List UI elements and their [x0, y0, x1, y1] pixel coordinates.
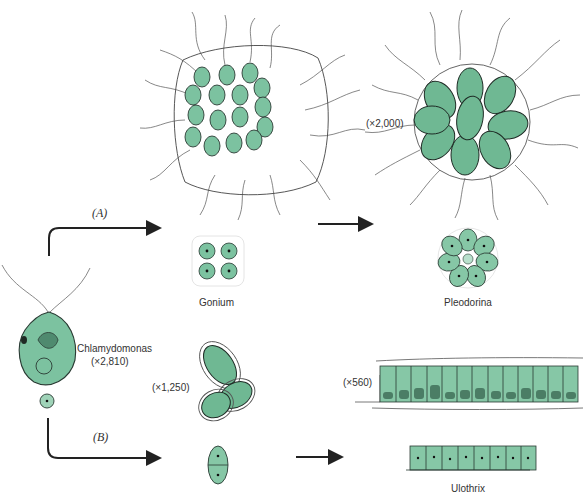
- chlamydomonas-magnification: (×2,810): [91, 356, 129, 367]
- gonium-small-illustration: [192, 236, 244, 286]
- tetraspora-illustration: [191, 334, 261, 484]
- pathway-b-label: (B): [93, 430, 108, 445]
- pleodorina-small-illustration: [437, 228, 500, 290]
- chlamydomonas-illustration: [2, 265, 90, 408]
- tetraspora-magnification: (×1,250): [152, 382, 190, 393]
- ulothrix-magnification: (×560): [343, 377, 372, 388]
- ulothrix-label: Ulothrix: [451, 483, 485, 494]
- pleodorina-label: Pleodorina: [444, 297, 492, 308]
- gonium-colony-illustration: [140, 12, 365, 220]
- algae-evolution-diagram: (A) (B) Chlamydomonas (×2,810) Gonium Pl…: [0, 0, 583, 498]
- pathway-a-arrow: [49, 228, 158, 256]
- chlamydomonas-label: Chlamydomonas: [77, 343, 152, 354]
- pleodorina-magnification: (×2,000): [366, 118, 404, 129]
- gonium-label: Gonium: [199, 297, 234, 308]
- pathway-a-label: (A): [92, 206, 107, 221]
- pleodorina-colony-illustration: [365, 10, 580, 220]
- ulothrix-filament-illustration: [355, 358, 583, 410]
- ulothrix-small-illustration: [406, 446, 536, 470]
- diagram-graphics: [0, 0, 583, 498]
